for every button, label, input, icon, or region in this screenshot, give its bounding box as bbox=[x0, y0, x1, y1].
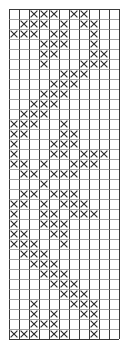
pattern-chart-container bbox=[0, 0, 125, 343]
stitch-pattern-grid bbox=[0, 0, 125, 343]
